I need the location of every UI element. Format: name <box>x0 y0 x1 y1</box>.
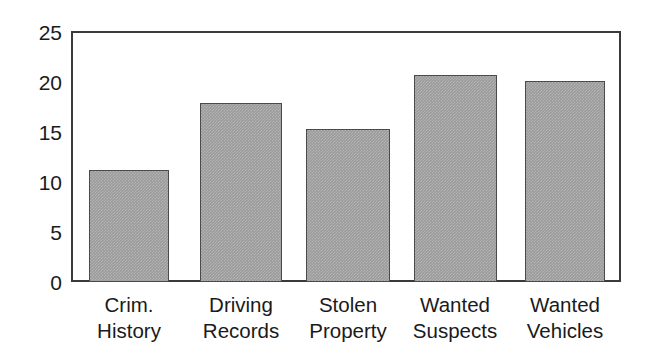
bar-wanted-suspects <box>414 75 497 282</box>
y-tick-label-20: 20 <box>18 72 62 93</box>
x-category-label-4-line2: Vehicles <box>499 318 631 344</box>
x-axis: Crim. History Driving Records Stolen Pro… <box>71 292 621 356</box>
bar-driving-records <box>200 103 282 282</box>
y-tick-label-0: 0 <box>18 272 62 293</box>
bar-chart: 25 20 15 10 5 0 Crim. History Driving Re… <box>0 0 649 361</box>
y-tick-label-25: 25 <box>18 22 62 43</box>
bar-stolen-property <box>306 129 390 282</box>
x-category-label-4: Wanted Vehicles <box>499 292 631 344</box>
x-category-label-4-line1: Wanted <box>499 292 631 318</box>
y-axis: 25 20 15 10 5 0 <box>18 0 62 361</box>
bars-layer <box>71 31 621 282</box>
bar-crim-history <box>89 170 169 282</box>
y-tick-label-15: 15 <box>18 122 62 143</box>
bar-wanted-vehicles <box>525 81 605 282</box>
y-tick-label-10: 10 <box>18 172 62 193</box>
y-tick-label-5: 5 <box>18 222 62 243</box>
